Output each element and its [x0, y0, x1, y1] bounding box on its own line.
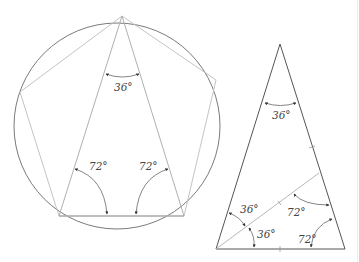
right-apex-angle-arc [265, 103, 296, 106]
triangle-right-side [122, 16, 184, 216]
base-right-angle-arc [136, 169, 168, 214]
bisected-lower-arc [249, 228, 254, 247]
base-right-label: 72° [298, 233, 317, 245]
base-left-angle-arc [75, 169, 107, 214]
golden-triangle [216, 44, 345, 249]
pentagon [20, 16, 216, 216]
triangle-left-side [59, 16, 122, 216]
apex-angle-label: 36° [114, 81, 133, 93]
right-apex-angle-label: 36° [272, 109, 291, 121]
left-figure: 36° 72° 72° [14, 16, 220, 229]
bisected-lower-label: 36° [257, 228, 276, 240]
bisected-upper-label: 36° [240, 203, 259, 215]
right-figure: 36° 36° 36° 72° 72° [216, 44, 345, 252]
circumscribed-circle [14, 23, 220, 229]
inner-angle-label: 72° [287, 206, 306, 218]
apex-angle-arc [106, 74, 139, 77]
inner-angle-arc [294, 194, 329, 205]
base-right-angle-label: 72° [139, 160, 158, 172]
base-left-angle-label: 72° [89, 160, 108, 172]
geometry-diagram: 36° 72° 72° 36° 36° 36° 72° 72° [0, 0, 359, 262]
